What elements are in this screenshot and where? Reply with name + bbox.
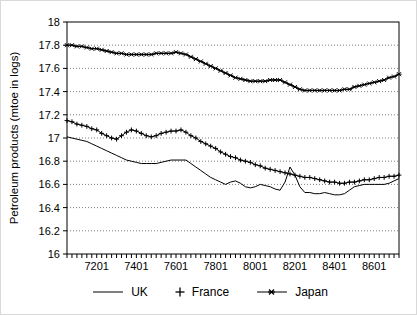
- uk-line-icon: [91, 287, 125, 297]
- svg-text:17.6: 17.6: [39, 62, 60, 74]
- y-axis-title: Petroleum products (mtoe in logs): [8, 22, 22, 254]
- legend-label-uk: UK: [131, 285, 148, 299]
- line-chart-plot-area: 1616.216.416.616.81717.217.417.617.81872…: [1, 1, 417, 279]
- svg-text:17.2: 17.2: [39, 109, 60, 121]
- france-plus-marker-icon: [174, 286, 186, 298]
- svg-text:17.4: 17.4: [39, 86, 60, 98]
- svg-text:17: 17: [48, 132, 60, 144]
- legend-item-france: France: [174, 285, 229, 299]
- svg-text:16.6: 16.6: [39, 178, 60, 190]
- svg-text:16: 16: [48, 248, 60, 260]
- legend-item-japan: Japan: [255, 285, 328, 299]
- svg-text:7401: 7401: [124, 260, 148, 272]
- svg-text:7201: 7201: [84, 260, 108, 272]
- svg-text:17.8: 17.8: [39, 39, 60, 51]
- svg-text:16.8: 16.8: [39, 155, 60, 167]
- svg-text:7801: 7801: [203, 260, 227, 272]
- svg-text:8601: 8601: [362, 260, 386, 272]
- japan-line-star-icon: [255, 286, 289, 298]
- legend: UK France Japan: [1, 285, 417, 299]
- svg-text:7601: 7601: [164, 260, 188, 272]
- svg-text:16.2: 16.2: [39, 225, 60, 237]
- legend-item-uk: UK: [91, 285, 148, 299]
- svg-text:8401: 8401: [322, 260, 346, 272]
- svg-text:8001: 8001: [243, 260, 267, 272]
- svg-text:18: 18: [48, 16, 60, 28]
- legend-label-france: France: [192, 285, 229, 299]
- svg-text:8201: 8201: [283, 260, 307, 272]
- legend-label-japan: Japan: [295, 285, 328, 299]
- svg-text:16.4: 16.4: [39, 202, 60, 214]
- petroleum-products-chart-figure: 1616.216.416.616.81717.217.417.617.81872…: [0, 0, 417, 315]
